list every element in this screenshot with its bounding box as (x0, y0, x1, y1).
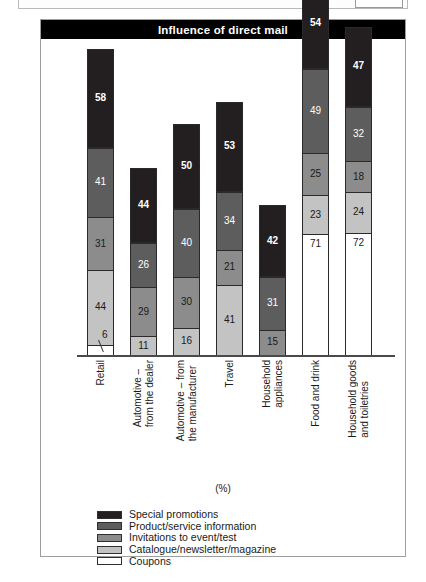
bar-segment: 31 (259, 277, 286, 330)
category-label: Retail (87, 360, 114, 386)
bar-segment: 49 (302, 69, 329, 152)
bar-column[interactable]: 584131446 (87, 49, 114, 355)
legend-item[interactable]: Coupons (97, 555, 276, 567)
category-label-line: Automotive – (132, 360, 143, 427)
category-label-line: Household (261, 360, 272, 408)
bar-segment: 16 (173, 328, 200, 355)
bar-column[interactable]: 4732182472 (345, 27, 372, 355)
category-label: Travel (216, 360, 243, 387)
bar-segment: 41 (87, 148, 114, 218)
page-title: Influence of direct mail (158, 24, 288, 36)
category-label: Householdappliances (259, 360, 286, 408)
category-label: Household goodsand toiletries (345, 360, 372, 438)
category-label-line: Travel (224, 360, 235, 387)
category-label-line: Automotive – from (175, 360, 186, 441)
bar-segment: 72 (345, 233, 372, 355)
bar-column[interactable]: 5449252371 (302, 0, 329, 355)
clipped-toolbar-strip (18, 0, 408, 9)
bar-column[interactable]: 53342141 (216, 102, 243, 355)
clipped-source-note (40, 572, 386, 582)
bar-segment: 31 (87, 217, 114, 270)
bar-segment: 44 (87, 270, 114, 345)
bar-column[interactable]: 50403016 (173, 124, 200, 355)
bar-group: 5841314464426291150403016533421414231155… (83, 45, 389, 355)
legend-swatch (97, 557, 122, 565)
bar-segment: 15 (259, 330, 286, 356)
bar-segment: 50 (173, 124, 200, 209)
category-label-group: RetailAutomotive –from the dealerAutomot… (83, 360, 389, 480)
bar-segment: 42 (259, 205, 286, 276)
legend-swatch (97, 522, 122, 530)
legend-label: Product/service information (129, 521, 256, 532)
bar-segment: 71 (302, 234, 329, 355)
category-label-line: and toiletries (359, 360, 370, 438)
bar-segment: 41 (216, 285, 243, 355)
category-label-line: Retail (95, 360, 106, 386)
bar-segment: 32 (345, 107, 372, 161)
bar-segment: 58 (87, 49, 114, 148)
bar-segment: 30 (173, 277, 200, 328)
plot-area: 5841314464426291150403016533421414231155… (41, 39, 405, 558)
bar-segment: 18 (345, 161, 372, 192)
bar-segment: 26 (130, 243, 157, 287)
axis-unit-label: (%) (41, 483, 405, 494)
legend-swatch (97, 546, 122, 554)
x-axis-line (77, 355, 395, 357)
category-label-line: the manufacturer (187, 360, 198, 441)
category-label: Automotive –from the dealer (130, 360, 157, 427)
category-label-line: Household goods (347, 360, 358, 438)
legend-swatch (97, 511, 122, 519)
chart-figure: Influence of direct mail 584131446442629… (40, 19, 406, 557)
legend-item[interactable]: Catalogue/newsletter/magazine (97, 544, 276, 556)
bar-segment: 53 (216, 102, 243, 192)
bar-segment: 23 (302, 195, 329, 234)
legend-label: Invitations to event/test (129, 532, 236, 543)
bar-column[interactable]: 423115 (259, 205, 286, 355)
category-label: Food and drink (302, 360, 329, 427)
legend-swatch (97, 534, 122, 542)
chart-legend: Special promotionsProduct/service inform… (97, 509, 276, 567)
category-label-line: from the dealer (144, 360, 155, 427)
bar-segment: 25 (302, 153, 329, 196)
legend-label: Special promotions (129, 509, 218, 520)
legend-item[interactable]: Special promotions (97, 509, 276, 521)
bar-segment: 54 (302, 0, 329, 69)
category-label-line: appliances (273, 360, 284, 408)
bar-segment: 6 (87, 345, 114, 355)
legend-label: Catalogue/newsletter/magazine (129, 544, 276, 555)
bar-segment: 47 (345, 27, 372, 107)
bar-segment: 21 (216, 250, 243, 286)
bar-segment: 29 (130, 287, 157, 336)
bar-segment: 11 (130, 336, 157, 355)
legend-item[interactable]: Invitations to event/test (97, 532, 276, 544)
legend-label: Coupons (129, 556, 171, 567)
clipped-toolbar-button[interactable] (355, 0, 403, 8)
bar-segment: 40 (173, 209, 200, 277)
value-callout: 6 (102, 330, 108, 340)
bar-segment: 24 (345, 192, 372, 233)
category-label: Automotive – fromthe manufacturer (173, 360, 200, 441)
bar-segment: 44 (130, 168, 157, 243)
bar-column[interactable]: 44262911 (130, 168, 157, 355)
legend-item[interactable]: Product/service information (97, 521, 276, 533)
category-label-line: Food and drink (310, 360, 321, 427)
bar-segment: 34 (216, 192, 243, 250)
